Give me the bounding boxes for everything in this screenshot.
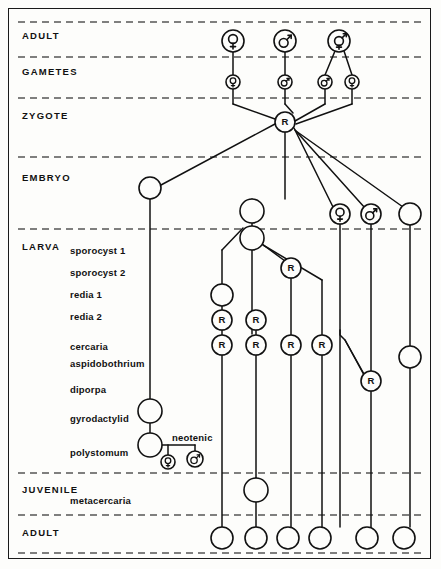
edge-e-herm-to-ovum: [344, 51, 352, 75]
edge-e-zyg-to-embryo-f: [294, 128, 333, 207]
larva-label-sporocyst-1: sporocyst 1: [70, 245, 126, 256]
regeneration-icon: R: [368, 375, 375, 386]
stage-label-larva: LARVA: [22, 241, 60, 252]
node-gamete-sperm-2: [318, 75, 332, 89]
node-row-embryo: [139, 177, 421, 225]
node-row-adult_top: [222, 30, 350, 52]
node-group: RRRRRRRRR: [138, 30, 421, 549]
regeneration-icon: R: [219, 314, 226, 325]
stage-label-zygote: ZYGOTE: [22, 110, 69, 121]
larva-label-gyrodactylid: gyrodactylid: [70, 413, 129, 424]
larva-label-cercaria: cercaria: [70, 341, 108, 352]
node-embryo-right: [399, 203, 421, 225]
node-row-juvenile: [244, 478, 268, 502]
node-redia1-plain: [211, 284, 233, 306]
node-embryo-left: [139, 177, 161, 199]
node-adult-bot-5: [356, 527, 378, 549]
node-metacercaria-node: [244, 478, 268, 502]
node-aspidobothrium-right: [399, 346, 421, 368]
node-row-adult_bottom: [211, 527, 415, 549]
larva-label-redia-2: redia 2: [70, 311, 102, 322]
stage-label-embryo: EMBRYO: [22, 172, 71, 183]
node-sporocyst-node: [240, 226, 264, 250]
node-adult-top-male: [274, 30, 296, 52]
stage-label-adult-top: ADULT: [22, 30, 60, 41]
edge-e-ovum2-to-zyg: [296, 104, 352, 124]
node-row-zygote: R: [275, 112, 295, 132]
regeneration-icon: R: [319, 339, 326, 350]
node-adult-bot-2: [245, 527, 267, 549]
node-adult-bot-4: [309, 527, 331, 549]
branch-b-asp-to-diporpa: [340, 330, 364, 374]
larva-label-polystomum: polystomum: [70, 447, 128, 458]
edge-e-herm-to-sperm: [325, 51, 335, 75]
edge-e-zyg-to-embryo-left: [161, 124, 275, 185]
life-cycle-diagram: RRRRRRRRR ADULTGAMETESZYGOTEEMBRYOLARVAJ…: [0, 0, 441, 569]
larva-label-metacercaria: metacercaria: [70, 495, 131, 506]
node-adult-bot-1: [211, 527, 233, 549]
larva-label-diporpa: diporpa: [70, 384, 106, 395]
node-adult-bot-6: [393, 527, 415, 549]
larva-label-redia-1: redia 1: [70, 289, 102, 300]
edge-e-ovum1-to-zyg: [233, 104, 275, 119]
stage-label-adult-bottom: ADULT: [22, 527, 60, 538]
regeneration-icon: R: [288, 262, 295, 273]
regeneration-icon: R: [282, 116, 289, 127]
node-gyrodactylid-node: [138, 399, 162, 423]
node-adult-bot-3: [277, 527, 299, 549]
regeneration-icon: R: [219, 339, 226, 350]
node-polystomum-node: [138, 433, 162, 457]
annotation-neotenic: neotenic: [172, 432, 213, 443]
edge-e-zyg-to-embryo-r: [296, 131, 403, 207]
node-gamete-sperm-1: [278, 75, 292, 89]
node-embryo-male: [361, 204, 381, 224]
stage-label-juvenile: JUVENILE: [22, 484, 78, 495]
node-row-gametes: [226, 75, 359, 89]
stage-label-gametes: GAMETES: [22, 66, 78, 77]
larva-label-aspidobothrium: aspidobothrium: [70, 358, 145, 369]
larva-label-sporocyst-2: sporocyst 2: [70, 267, 126, 278]
node-embryo-center: [240, 199, 264, 223]
node-neotenic-male: [187, 451, 203, 467]
edge-e-zyg-to-embryo-m: [295, 130, 365, 208]
regeneration-icon: R: [253, 339, 260, 350]
regeneration-icon: R: [253, 314, 260, 325]
regeneration-icon: R: [288, 339, 295, 350]
